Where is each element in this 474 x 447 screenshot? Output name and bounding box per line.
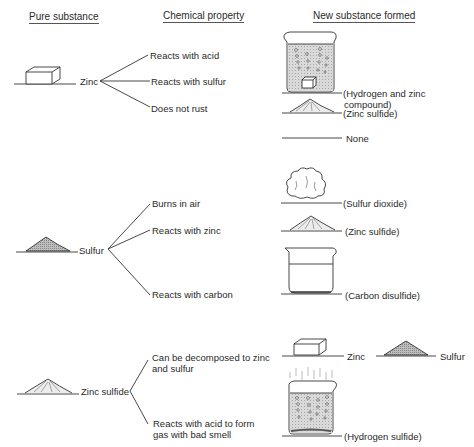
zinc-block-result-icon <box>282 339 344 356</box>
fuming-beaker-icon <box>282 367 342 436</box>
sulfur-pile-icon <box>16 237 78 252</box>
sulfur-branch-lines <box>108 204 150 295</box>
property-zinc-rust: Does not rust <box>151 103 208 114</box>
result-zinc-sulfide: (Zinc sulfide) <box>343 108 397 119</box>
diagram-artwork <box>0 0 474 447</box>
result-zinc: Zinc <box>347 351 365 362</box>
result-zinc-sulfide-2: (Zinc sulfide) <box>345 226 399 237</box>
property-sulfur-carbon: Reacts with carbon <box>152 289 233 300</box>
sulfur-pile-result-icon <box>376 341 436 356</box>
zinc-sulfide-branch-lines <box>130 360 148 424</box>
zinc-sulfide-pile-2-icon <box>281 216 342 231</box>
result-carbon-disulfide: (Carbon disulfide) <box>345 290 420 301</box>
bubbling-beaker-zinc-icon <box>282 32 342 93</box>
substance-zinc-sulfide: Zinc sulfide <box>81 386 129 397</box>
property-sulfur-burns: Burns in air <box>152 198 200 209</box>
zinc-sulfide-pile-icon <box>282 99 342 113</box>
result-sulfur-dioxide: (Sulfur dioxide) <box>343 198 407 209</box>
result-hydrogen-zinc: (Hydrogen and zinc <box>343 88 425 99</box>
zinc-branch-lines <box>100 55 150 107</box>
property-sulfur-zinc: Reacts with zinc <box>152 225 221 236</box>
property-zns-decompose-line2: and sulfur <box>152 363 194 374</box>
zinc-block-icon <box>14 67 76 84</box>
zinc-sulfide-pile-3-icon <box>17 379 79 394</box>
property-zns-decompose: Can be decomposed to zinc <box>152 352 270 363</box>
result-none: None <box>346 133 369 144</box>
liquid-beaker-icon <box>281 248 342 294</box>
property-zinc-sulfur: Reacts with sulfur <box>151 76 226 87</box>
property-zns-acid: Reacts with acid to form <box>153 418 254 429</box>
result-sulfur: Sulfur <box>440 351 465 362</box>
property-zns-acid-line2: gas with bad smell <box>153 429 231 440</box>
gas-cloud-icon <box>281 168 342 203</box>
property-zinc-acid: Reacts with acid <box>150 50 219 61</box>
substance-zinc: Zinc <box>80 76 98 87</box>
substance-sulfur: Sulfur <box>79 245 104 256</box>
result-hydrogen-sulfide: (Hydrogen sulfide) <box>344 431 422 442</box>
